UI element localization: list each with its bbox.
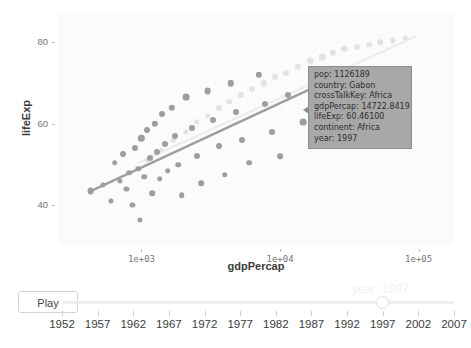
scatter-point[interactable]	[159, 111, 165, 117]
scatter-point[interactable]	[233, 109, 239, 115]
scatter-point[interactable]	[172, 133, 178, 139]
scatter-point[interactable]	[127, 170, 133, 176]
scatter-point[interactable]	[136, 166, 142, 172]
scatter-point[interactable]	[157, 176, 163, 182]
scatter-point[interactable]	[222, 172, 228, 178]
scatter-point[interactable]	[132, 145, 138, 151]
scatter-point[interactable]	[246, 160, 252, 166]
scatter-point[interactable]	[216, 143, 222, 149]
point-tooltip: pop: 1126189country: GaboncrossTalkKey: …	[308, 66, 412, 149]
tooltip-row: crossTalkKey: Africa	[314, 91, 407, 102]
scatter-point[interactable]	[300, 119, 307, 126]
slider-tick-mark	[133, 311, 134, 316]
tooltip-row: gdpPercap: 14722.8419	[314, 102, 407, 113]
tooltip-row: lifeExp: 60.46100	[314, 112, 407, 123]
slider-tick-mark	[276, 311, 277, 316]
tooltip-row: continent: Africa	[314, 123, 407, 134]
tooltip-row: country: Gabon	[314, 81, 407, 92]
scatter-point[interactable]	[120, 151, 126, 157]
scatter-point[interactable]	[112, 160, 118, 166]
scatter-point[interactable]	[269, 129, 275, 135]
scatter-point[interactable]	[142, 174, 148, 180]
scatter-point[interactable]	[194, 119, 200, 125]
year-slider-handle[interactable]	[376, 296, 389, 309]
scatter-point[interactable]	[204, 88, 211, 95]
slider-tick-label[interactable]: 2007	[429, 318, 471, 330]
slider-tick-mark	[454, 311, 455, 316]
scatter-point[interactable]	[162, 141, 168, 147]
slider-tick-mark	[383, 311, 384, 316]
scatter-point[interactable]	[354, 44, 360, 50]
slider-tick-mark	[98, 311, 99, 316]
scatter-point[interactable]	[179, 192, 185, 198]
slider-tick-mark	[311, 311, 312, 316]
slider-tick-mark	[169, 311, 170, 316]
scatter-point[interactable]	[154, 149, 160, 155]
year-slider-track[interactable]	[62, 301, 454, 304]
scatter-point[interactable]	[189, 125, 195, 131]
scatter-plot[interactable]: 406080 lifeExp 1e+031e+041e+05 gdpPercap…	[0, 0, 466, 282]
scatter-point[interactable]	[194, 153, 200, 159]
scatter-point[interactable]	[285, 92, 291, 98]
scatter-point[interactable]	[183, 94, 190, 101]
scatter-point[interactable]	[277, 154, 283, 160]
scatter-point[interactable]	[165, 168, 171, 174]
scatter-point[interactable]	[144, 127, 150, 133]
animation-control-bar[interactable]: year: 1997 Play 195219571962196719721977…	[0, 282, 466, 348]
scatter-point[interactable]	[378, 40, 384, 46]
scatter-point[interactable]	[238, 92, 244, 98]
scatter-point[interactable]	[262, 101, 268, 107]
scatter-point[interactable]	[198, 180, 204, 186]
scatter-point[interactable]	[147, 155, 153, 161]
scatter-point[interactable]	[403, 36, 408, 41]
scatter-point[interactable]	[318, 53, 325, 60]
scatter-point[interactable]	[239, 137, 245, 143]
scatter-point[interactable]	[210, 117, 216, 123]
slider-tick-mark	[347, 311, 348, 316]
scatter-point[interactable]	[283, 70, 289, 76]
slider-tick-mark	[62, 311, 63, 316]
slider-tick-mark	[418, 311, 419, 316]
scatter-point[interactable]	[216, 105, 222, 111]
scatter-point[interactable]	[87, 188, 94, 195]
scatter-point[interactable]	[226, 99, 232, 105]
slider-tick-mark	[205, 311, 206, 316]
scatter-point[interactable]	[176, 162, 182, 168]
scatter-point[interactable]	[150, 190, 156, 196]
tooltip-arrow-icon	[303, 106, 309, 114]
tooltip-row: pop: 1126189	[314, 70, 407, 81]
year-ghost-label: year: 1997	[352, 282, 409, 296]
scatter-point[interactable]	[249, 86, 255, 92]
tooltip-row: year: 1997	[314, 134, 407, 145]
scatter-point[interactable]	[366, 42, 372, 48]
slider-tick-mark	[240, 311, 241, 316]
